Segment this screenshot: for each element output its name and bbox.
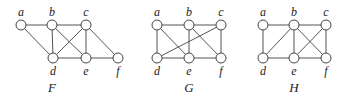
vertex-a (258, 20, 268, 30)
graph-diagram: abcdefFabcdefGabcdefH (0, 0, 344, 101)
vertex-label-b: b (49, 5, 55, 19)
vertex-f (321, 53, 331, 63)
vertex-a (16, 20, 26, 30)
vertex-c (81, 20, 91, 30)
vertex-c (321, 20, 331, 30)
vertex-b (47, 20, 57, 30)
vertex-label-c: c (218, 5, 224, 19)
edge-a-d (21, 25, 53, 58)
vertex-label-e: e (83, 64, 89, 78)
vertex-label-b: b (291, 5, 297, 19)
edge-b-d (263, 25, 294, 58)
vertex-label-f: f (116, 64, 121, 78)
vertex-label-d: d (50, 64, 57, 78)
vertex-a (152, 20, 162, 30)
vertex-label-f: f (324, 64, 329, 78)
vertex-label-c: c (323, 5, 329, 19)
graph-g: abcdefG (152, 5, 226, 95)
edge-a-e (157, 25, 189, 58)
vertex-label-d: d (154, 64, 161, 78)
graph-name-label: F (47, 80, 57, 95)
vertex-label-a: a (260, 5, 266, 19)
vertex-label-c: c (83, 5, 89, 19)
vertex-e (184, 53, 194, 63)
graph-f: abcdefF (16, 5, 123, 95)
edge-b-f (189, 25, 221, 58)
vertex-b (184, 20, 194, 30)
vertex-c (216, 20, 226, 30)
vertex-label-f: f (219, 64, 224, 78)
vertex-label-e: e (291, 64, 297, 78)
graph-h: abcdefH (258, 5, 331, 95)
vertex-label-d: d (260, 64, 267, 78)
vertex-f (113, 53, 123, 63)
vertex-b (289, 20, 299, 30)
graph-name-label: G (184, 80, 194, 95)
vertex-label-a: a (18, 5, 24, 19)
vertex-e (81, 53, 91, 63)
vertex-e (289, 53, 299, 63)
vertex-d (48, 53, 58, 63)
vertex-label-e: e (186, 64, 192, 78)
vertex-d (152, 53, 162, 63)
vertex-f (216, 53, 226, 63)
vertex-label-b: b (186, 5, 192, 19)
vertex-label-a: a (154, 5, 160, 19)
edge-c-f (86, 25, 118, 58)
vertex-d (258, 53, 268, 63)
graph-name-label: H (288, 80, 299, 95)
